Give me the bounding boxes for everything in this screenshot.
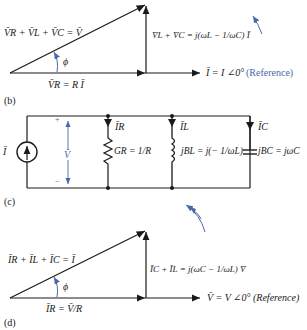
current-sum-label-d: ĪR + ĪL + ĪC = Ī [8, 255, 75, 265]
current-ref-label: Ī = I ∠0° [206, 68, 244, 78]
caption-d: (d) [4, 318, 16, 328]
caption-b: (b) [4, 96, 16, 106]
plus-sign: + [55, 116, 60, 124]
phasor-diagram-d [10, 205, 205, 298]
source-current-label: Ī [3, 147, 6, 157]
ic-label: ĪC [258, 122, 268, 132]
voltage-ref-label: V̄ = V ∠0° (Reference) [207, 293, 299, 303]
minus-sign: − [55, 178, 60, 186]
caption-c: (c) [4, 197, 15, 207]
bl-label: jBL = j(− 1/ωL) [181, 147, 243, 157]
gr-label: GR = 1/R [114, 147, 151, 157]
vl-vc-label: V̄L + V̄C = j(ωL − 1/ωC) Ī [152, 31, 250, 40]
angle-phi-b: ϕ [63, 57, 68, 67]
voltage-label: V̄ [64, 150, 70, 160]
il-label: ĪL [180, 122, 189, 132]
vr-label: V̄R = R Ī [48, 80, 84, 90]
bc-label: jBC = jωC [258, 147, 300, 157]
diagram-canvas [0, 0, 307, 330]
circuit-c [17, 114, 257, 219]
ir-label: ĪR [115, 122, 124, 132]
reference-note: (Reference) [246, 68, 293, 78]
ir-eq-label: ĪR = V̄/R [46, 304, 82, 314]
vector-sum-label-b: V̄R + V̄L + V̄C = V̄ [4, 28, 82, 38]
angle-phi-d: ϕ [63, 282, 68, 292]
ic-il-label: ĪC + ĪL = j(ωC − 1/ωL) V̄ [150, 265, 246, 274]
